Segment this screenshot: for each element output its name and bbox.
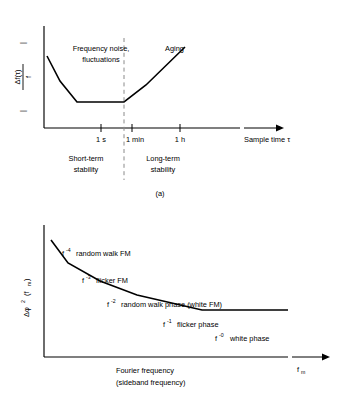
- xtick-label-1s: 1 s: [96, 135, 106, 144]
- annotation-exp-f-1: -1: [167, 318, 172, 324]
- y-axis-arg-sub: m: [26, 282, 32, 286]
- x-axis-label-line2: (sideband frequency): [116, 378, 185, 387]
- annotation-text-flicker-fm: flicker FM: [96, 276, 128, 285]
- annotation-exp-f-2-base: f: [107, 300, 110, 309]
- annotation-exp-f-1-base: f: [163, 320, 166, 329]
- y-axis-label-lower: Δφ 2 (f m ): [20, 279, 32, 317]
- y-axis-denominator: f: [24, 75, 33, 78]
- y-axis-label: | Δf(τ) f |: [13, 42, 33, 112]
- figure-container: | Δf(τ) f | 1 s 1 min 1 h Sample time τ …: [0, 0, 338, 395]
- x-axis-arrow-head-lower: [322, 354, 330, 361]
- y-axis-arg-close: ): [22, 279, 31, 281]
- x-axis-symbol-f: f: [297, 365, 300, 374]
- xtick-label-1h: 1 h: [175, 135, 185, 144]
- annotation-short-term-line1: Short-term: [69, 154, 104, 163]
- panel-caption-a: (a): [155, 189, 164, 198]
- y-axis-bar-right: |: [18, 42, 27, 44]
- x-axis-symbol-sub-m: m: [301, 369, 305, 375]
- annotation-exp-f-0-base: f: [215, 334, 218, 343]
- annotation-frequency-noise-line1: Frequency noise,: [73, 44, 130, 53]
- annotation-exp-f-3-base: f: [82, 276, 85, 285]
- y-axis-numerator: Δf(τ): [13, 70, 22, 85]
- annotation-random-walk-fm: f -4 random walk FM: [62, 247, 131, 258]
- annotation-exp-f-4-base: f: [62, 249, 65, 258]
- annotation-white-phase: f -0 white phase: [215, 332, 269, 343]
- y-axis-exponent: 2: [20, 300, 26, 303]
- y-axis-arg-open: (f: [22, 291, 31, 296]
- annotation-exp-f-2: -2: [111, 298, 116, 304]
- x-axis-arrow-head: [276, 125, 284, 132]
- y-axis-bar-left: |: [18, 110, 27, 112]
- chart-fractional-frequency-vs-sample-time: | Δf(τ) f | 1 s 1 min 1 h Sample time τ …: [0, 0, 338, 200]
- annotation-flicker-phase: f -1 flicker phase: [163, 318, 219, 329]
- annotation-exp-f-4: -4: [66, 247, 71, 253]
- annotation-random-walk-phase: f -2 random walk phase (white FM): [107, 298, 222, 309]
- chart-phase-noise-vs-fourier-frequency: Δφ 2 (f m ) f -4 random walk FM f -3 fli…: [0, 205, 338, 395]
- annotation-text-random-walk-phase: random walk phase (white FM): [121, 300, 222, 309]
- annotation-frequency-noise-line2: fluctuations: [82, 55, 120, 64]
- y-axis-delta-phi: Δφ: [22, 307, 31, 317]
- xtick-label-1min: 1 min: [126, 135, 144, 144]
- annotation-exp-f-0: -0: [219, 332, 224, 338]
- x-axis-label-line1: Fourier frequency: [116, 366, 174, 375]
- annotation-long-term-line2: stability: [151, 165, 176, 174]
- annotation-short-term-line2: stability: [74, 165, 99, 174]
- annotation-aging: Aging: [165, 44, 184, 53]
- x-axis-label: Sample time τ: [244, 135, 290, 144]
- annotation-text-white-phase: white phase: [229, 334, 269, 343]
- annotation-text-flicker-phase: flicker phase: [177, 320, 219, 329]
- annotation-text-random-walk-fm: random walk FM: [76, 249, 131, 258]
- annotation-flicker-fm: f -3 flicker FM: [82, 274, 128, 285]
- annotation-long-term-line1: Long-term: [146, 154, 180, 163]
- annotation-exp-f-3: -3: [86, 274, 91, 280]
